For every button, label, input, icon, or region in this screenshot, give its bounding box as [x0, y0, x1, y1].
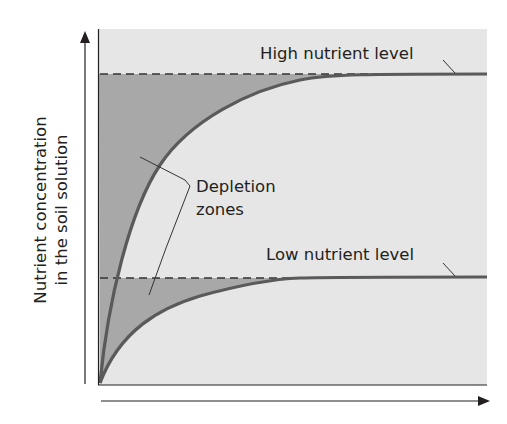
depletion-zone-diagram: High nutrient level Low nutrient level D…: [0, 0, 507, 424]
y-axis-label-line2: in the soil solution: [52, 134, 71, 285]
y-axis-arrow-icon: [80, 31, 90, 43]
low-nutrient-label: Low nutrient level: [266, 245, 414, 264]
x-axis-arrow-icon: [478, 396, 490, 406]
y-axis-label-line1: Nutrient concentration: [31, 116, 50, 303]
depletion-label-line2: zones: [196, 200, 244, 219]
high-nutrient-label: High nutrient level: [260, 44, 413, 63]
depletion-label-line1: Depletion: [196, 177, 276, 196]
